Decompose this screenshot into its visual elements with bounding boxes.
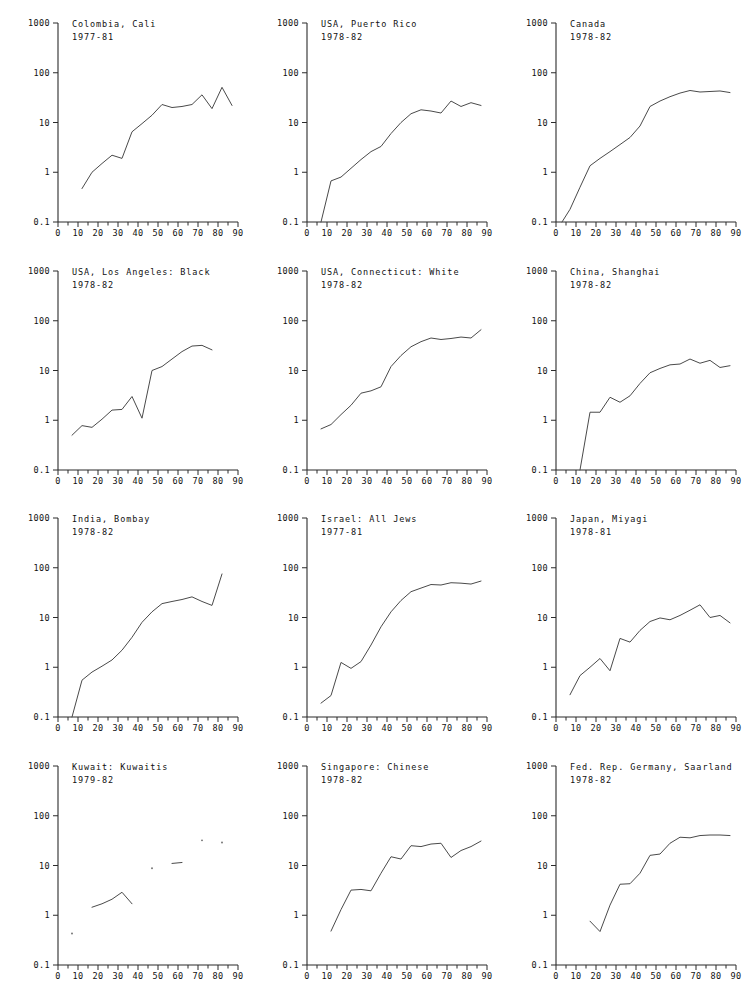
series-segment: [92, 892, 132, 907]
chart-grid: 0.111010010000102030405060708090Colombia…: [0, 0, 748, 995]
y-axis-ticks: 0.11101001000: [277, 513, 307, 722]
x-tick-label: 10: [570, 723, 581, 733]
x-tick-label: 80: [710, 971, 721, 981]
axis-group: [556, 271, 736, 470]
chart-panel: 0.111010010000102030405060708090Japan, M…: [498, 495, 748, 743]
y-tick-label: 1000: [28, 266, 50, 276]
y-tick-label: 1000: [526, 18, 548, 28]
x-tick-label: 50: [650, 723, 661, 733]
x-tick-label: 90: [232, 476, 243, 486]
panel-title: China, Shanghai: [570, 267, 660, 277]
axis-group: [58, 23, 238, 222]
data-point: [221, 842, 223, 844]
x-tick-label: 80: [461, 476, 472, 486]
x-tick-label: 20: [92, 971, 103, 981]
x-tick-label: 60: [421, 971, 432, 981]
x-axis-ticks: 0102030405060708090: [55, 470, 243, 486]
x-tick-label: 40: [630, 971, 641, 981]
x-tick-label: 0: [55, 228, 61, 238]
x-tick-label: 80: [212, 971, 223, 981]
panel-title: Canada: [570, 19, 606, 29]
panel-title: Fed. Rep. Germany, Saarland: [570, 762, 732, 772]
y-tick-label: 0.1: [282, 217, 299, 227]
x-tick-label: 0: [304, 971, 310, 981]
y-tick-label: 0.1: [33, 465, 50, 475]
series-line: [321, 101, 481, 222]
y-axis-ticks: 0.11101001000: [28, 513, 58, 722]
x-tick-label: 60: [172, 228, 183, 238]
x-tick-label: 30: [610, 971, 621, 981]
x-tick-label: 50: [401, 476, 412, 486]
axis-group: [556, 518, 736, 717]
y-tick-label: 100: [33, 563, 50, 573]
y-axis-ticks: 0.11101001000: [526, 18, 556, 227]
y-tick-label: 1000: [28, 513, 50, 523]
chart-panel: 0.111010010000102030405060708090Israel: …: [249, 495, 498, 743]
x-tick-label: 70: [192, 971, 203, 981]
y-tick-label: 1: [542, 415, 548, 425]
x-axis-ticks: 0102030405060708090: [553, 717, 741, 733]
y-tick-label: 1: [293, 167, 299, 177]
x-tick-label: 20: [92, 723, 103, 733]
axis-group: [556, 766, 736, 965]
x-axis-ticks: 0102030405060708090: [55, 222, 243, 238]
y-tick-label: 1: [542, 662, 548, 672]
x-tick-label: 10: [72, 723, 83, 733]
x-tick-label: 30: [610, 476, 621, 486]
panel-subtitle: 1977-81: [321, 527, 363, 537]
panel-title: USA, Connecticut: White: [321, 267, 459, 277]
x-tick-label: 30: [361, 476, 372, 486]
data-series: [562, 90, 730, 222]
y-tick-label: 100: [282, 68, 299, 78]
y-tick-label: 1000: [526, 761, 548, 771]
y-tick-label: 0.1: [531, 712, 548, 722]
panel-subtitle: 1978-82: [321, 775, 363, 785]
x-tick-label: 30: [112, 476, 123, 486]
series-line: [72, 574, 222, 717]
x-tick-label: 70: [441, 723, 452, 733]
x-tick-label: 0: [553, 723, 559, 733]
x-tick-label: 30: [361, 228, 372, 238]
y-axis-ticks: 0.11101001000: [28, 266, 58, 475]
x-tick-label: 80: [212, 228, 223, 238]
y-tick-label: 100: [531, 811, 548, 821]
y-tick-label: 1000: [526, 266, 548, 276]
panel-title: Kuwait: Kuwaitis: [72, 762, 168, 772]
x-tick-label: 60: [421, 228, 432, 238]
data-point: [151, 867, 153, 869]
panel-subtitle: 1978-82: [570, 775, 612, 785]
y-tick-label: 100: [531, 316, 548, 326]
y-tick-label: 10: [288, 366, 299, 376]
x-tick-label: 80: [212, 723, 223, 733]
x-tick-label: 40: [132, 971, 143, 981]
x-tick-label: 50: [650, 228, 661, 238]
y-tick-label: 10: [288, 613, 299, 623]
x-tick-label: 60: [670, 476, 681, 486]
panel-title: Japan, Miyagi: [570, 514, 648, 524]
y-tick-label: 1000: [28, 18, 50, 28]
data-point: [201, 839, 203, 841]
series-line: [580, 359, 730, 470]
y-tick-label: 1: [293, 662, 299, 672]
x-tick-label: 20: [590, 476, 601, 486]
x-tick-label: 0: [55, 723, 61, 733]
x-axis-ticks: 0102030405060708090: [304, 470, 492, 486]
x-tick-label: 60: [670, 971, 681, 981]
data-series: [321, 330, 481, 429]
x-tick-label: 70: [690, 476, 701, 486]
series-line: [72, 345, 212, 435]
x-tick-label: 60: [172, 723, 183, 733]
x-tick-label: 60: [421, 476, 432, 486]
x-tick-label: 50: [650, 476, 661, 486]
x-tick-label: 90: [481, 723, 492, 733]
x-tick-label: 10: [321, 723, 332, 733]
x-tick-label: 80: [212, 476, 223, 486]
chart-panel: 0.111010010000102030405060708090USA, Con…: [249, 248, 498, 495]
x-tick-label: 30: [112, 723, 123, 733]
y-axis-ticks: 0.11101001000: [526, 266, 556, 475]
x-tick-label: 0: [55, 476, 61, 486]
x-tick-label: 30: [112, 228, 123, 238]
panel-title: USA, Los Angeles: Black: [72, 267, 210, 277]
y-axis-ticks: 0.11101001000: [277, 761, 307, 970]
data-series: [72, 345, 212, 435]
